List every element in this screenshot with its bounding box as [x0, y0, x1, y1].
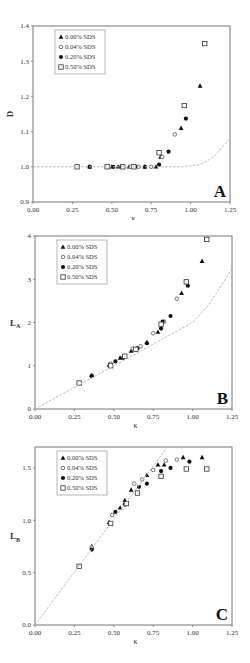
legend-item-label: 0.00% SDS	[67, 243, 98, 250]
legend-item-label: 0.50% SDS	[65, 63, 96, 70]
open-square-marker	[61, 486, 65, 490]
x-tick-label: 1.25	[226, 413, 239, 421]
x-tick-label: 1.25	[224, 206, 237, 214]
triangle-marker	[200, 258, 205, 262]
x-tick-label: 0.25	[66, 206, 79, 214]
legend-item-label: 0.00% SDS	[67, 454, 98, 461]
filled-circle-marker	[168, 466, 172, 470]
triangle-marker	[181, 455, 186, 459]
x-axis-label: κ	[133, 421, 137, 430]
x-tick-label: 1.00	[184, 206, 197, 214]
open-diamond-marker	[175, 297, 179, 301]
filled-circle-marker	[157, 163, 161, 167]
open-diamond-marker	[175, 458, 179, 462]
filled-circle-marker	[168, 314, 172, 318]
y-tick-label: 0.5	[22, 569, 31, 577]
x-tick-label: 0.50	[108, 629, 121, 637]
y-tick-label: 1.1	[20, 128, 29, 136]
triangle-marker	[156, 329, 161, 333]
open-diamond-marker	[164, 459, 168, 463]
legend: 0.00% SDS0.04% SDS0.20% SDS0.50% SDS	[55, 30, 105, 74]
open-square-marker	[205, 237, 209, 241]
panel-letter: B	[217, 389, 228, 408]
filled-circle-marker	[159, 469, 163, 473]
y-axis-label: D	[5, 110, 15, 117]
filled-circle-marker	[166, 150, 170, 154]
y-tick-label: 0	[28, 405, 32, 413]
panel-letter: A	[214, 182, 227, 201]
open-square-marker	[203, 41, 207, 45]
filled-circle-marker	[61, 265, 65, 269]
series-model	[35, 268, 232, 409]
x-tick-label: 0.50	[108, 413, 121, 421]
open-diamond-marker	[110, 513, 114, 517]
legend-item-label: 0.04% SDS	[65, 43, 96, 50]
open-diamond-marker	[173, 133, 177, 137]
open-square-marker	[184, 467, 188, 471]
triangle-marker	[162, 462, 167, 466]
open-diamond-marker	[151, 332, 155, 336]
y-tick-label: 1.0	[22, 517, 31, 525]
x-tick-label: 0.00	[29, 629, 42, 637]
legend-item-label: 0.04% SDS	[67, 253, 98, 260]
model-curve	[35, 268, 232, 409]
chart-panel-c: 0.000.250.500.751.001.250.00.51.01.5κLBC…	[0, 440, 250, 663]
legend-item-label: 0.00% SDS	[65, 33, 96, 40]
open-diamond-marker	[151, 468, 155, 472]
open-diamond-marker	[160, 155, 164, 159]
filled-circle-marker	[159, 326, 163, 330]
filled-circle-marker	[113, 510, 117, 514]
x-tick-label: 0.25	[68, 629, 81, 637]
open-square-marker	[159, 322, 163, 326]
legend-item-label: 0.20% SDS	[67, 474, 98, 481]
triangle-marker	[129, 487, 134, 491]
chart-b-svg: 0.000.250.500.751.001.2501234κLAB0.00% S…	[0, 220, 250, 440]
x-tick-label: 1.25	[226, 629, 239, 637]
chart-c-svg: 0.000.250.500.751.001.250.00.51.01.5κLBC…	[0, 440, 250, 663]
x-tick-label: 0.00	[27, 206, 40, 214]
open-square-marker	[59, 65, 63, 69]
filled-circle-marker	[184, 116, 188, 120]
filled-circle-marker	[145, 482, 149, 486]
legend: 0.00% SDS0.04% SDS0.20% SDS0.50% SDS	[57, 240, 107, 284]
open-square-marker	[157, 151, 161, 155]
chart-panel-b: 0.000.250.500.751.001.2501234κLAB0.00% S…	[0, 220, 250, 440]
x-tick-label: 1.00	[186, 629, 199, 637]
triangle-marker	[179, 125, 184, 129]
y-axis-label: LB	[10, 531, 20, 543]
legend-item-label: 0.50% SDS	[67, 484, 98, 491]
y-tick-label: 1.4	[20, 22, 29, 30]
chart-a-svg: 0.000.250.500.751.001.250.91.01.11.21.31…	[0, 0, 250, 220]
legend-item-label: 0.20% SDS	[67, 263, 98, 270]
y-tick-label: 0.0	[22, 621, 31, 629]
filled-circle-marker	[59, 55, 63, 59]
y-tick-label: 2	[28, 319, 32, 327]
open-square-marker	[123, 354, 127, 358]
open-diamond-marker	[61, 466, 65, 470]
chart-panel-a: 0.000.250.500.751.001.250.91.01.11.21.31…	[0, 0, 250, 220]
open-square-marker	[184, 280, 188, 284]
open-square-marker	[61, 275, 65, 279]
model-curve	[33, 139, 230, 167]
triangle-marker	[179, 290, 184, 294]
open-diamond-marker	[59, 45, 63, 49]
open-diamond-marker	[61, 255, 65, 259]
x-tick-label: 1.00	[186, 413, 199, 421]
y-tick-label: 1.5	[22, 464, 31, 472]
x-tick-label: 0.25	[68, 413, 81, 421]
y-tick-label: 1	[28, 362, 32, 370]
triangle-marker	[200, 455, 205, 459]
y-tick-label: 0.9	[20, 198, 29, 206]
series-0-00-sds	[87, 83, 202, 168]
open-diamond-marker	[132, 482, 136, 486]
x-tick-label: 0.00	[29, 413, 42, 421]
triangle-marker	[156, 462, 161, 466]
open-square-marker	[205, 467, 209, 471]
series-0-04-sds	[88, 133, 177, 169]
triangle-marker	[198, 83, 203, 87]
y-tick-label: 1.2	[20, 93, 29, 101]
legend-item-label: 0.20% SDS	[65, 53, 96, 60]
x-tick-label: 0.75	[145, 206, 158, 214]
x-axis-label: κ	[133, 637, 137, 646]
y-tick-label: 1.3	[20, 58, 29, 66]
